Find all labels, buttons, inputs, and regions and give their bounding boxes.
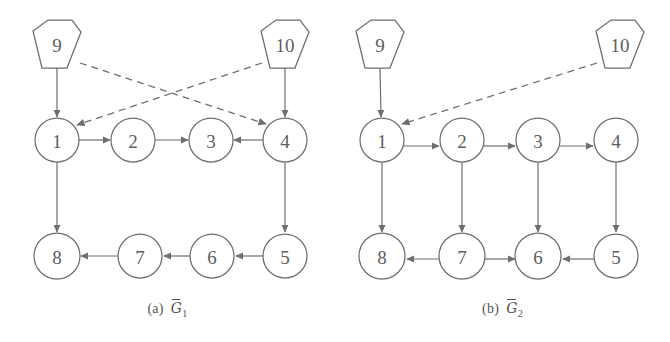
caption-a-tag: (a) [147,301,163,316]
node-6-label: 6 [533,247,543,268]
figure-two-graphs: 9 10 1 2 3 4 [0,0,670,342]
node-7-label: 7 [457,247,467,268]
node-3[interactable]: 3 [189,118,233,162]
node-2-label: 2 [457,131,467,152]
node-5[interactable]: 5 [594,234,638,278]
node-8[interactable]: 8 [34,233,80,279]
node-2[interactable]: 2 [440,118,484,162]
graph-a-canvas: 9 10 1 2 3 4 [0,0,335,300]
node-9-label: 9 [375,35,385,56]
node-8-label: 8 [377,247,387,268]
node-9[interactable]: 9 [33,20,81,68]
overbar [507,299,516,300]
node-8-label: 8 [52,247,62,268]
node-1-label: 1 [377,131,387,152]
node-6-label: 6 [207,247,217,268]
node-4-label: 4 [611,131,621,152]
edge-10-to-1-dashed [77,63,262,125]
node-9-label: 9 [52,35,62,56]
overbar [172,299,181,300]
node-1[interactable]: 1 [360,118,404,162]
caption-b-tag: (b) [482,301,499,316]
node-1[interactable]: 1 [35,118,79,162]
node-3-label: 3 [533,131,543,152]
caption-a-symbol-letter: G [171,300,182,316]
panel-graph-b: 9 10 1 2 3 4 [335,0,670,342]
node-4[interactable]: 4 [594,118,638,162]
edge-10-to-1-dashed [402,63,597,124]
node-7-label: 7 [135,247,145,268]
node-3-label: 3 [206,131,216,152]
node-1-label: 1 [52,131,62,152]
node-5-label: 5 [611,247,621,268]
caption-panel-b: (b)G2 [335,300,670,319]
node-5-label: 5 [280,247,290,268]
node-2[interactable]: 2 [111,118,155,162]
caption-panel-a: (a)G1 [0,300,335,319]
caption-b-symbol: G [506,300,517,316]
node-4-label: 4 [280,131,290,152]
node-6[interactable]: 6 [515,233,561,279]
caption-a-symbol: G [171,300,182,316]
node-4[interactable]: 4 [263,118,307,162]
node-3[interactable]: 3 [516,118,560,162]
node-8[interactable]: 8 [359,233,405,279]
node-5[interactable]: 5 [263,234,307,278]
node-10-label: 10 [611,35,630,56]
caption-b-subscript: 2 [518,308,523,319]
node-10[interactable]: 10 [261,20,309,68]
node-7[interactable]: 7 [439,233,485,279]
panel-graph-a: 9 10 1 2 3 4 [0,0,335,342]
node-7[interactable]: 7 [118,234,162,278]
node-2-label: 2 [128,131,138,152]
caption-b-symbol-letter: G [506,300,517,316]
node-10-label: 10 [276,35,295,56]
edge-9-to-1 [380,68,381,117]
caption-a-subscript: 1 [182,308,187,319]
node-6[interactable]: 6 [190,234,234,278]
node-10[interactable]: 10 [596,20,644,68]
node-9[interactable]: 9 [356,20,404,68]
graph-b-canvas: 9 10 1 2 3 4 [335,0,670,300]
